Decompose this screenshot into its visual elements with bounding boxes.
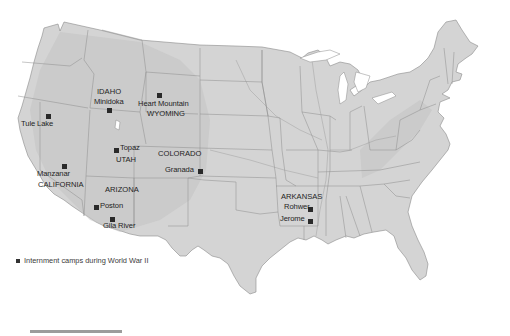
state-label-arizona: ARIZONA (105, 186, 139, 194)
great-salt-lake (115, 120, 120, 130)
state-label-idaho: IDAHO (97, 88, 121, 96)
camp-marker-granada[interactable] (198, 169, 203, 174)
camp-label-heart-mountain: Heart Mountain (138, 100, 189, 108)
lake-superior (300, 50, 340, 62)
state-label-arkansas: ARKANSAS (281, 193, 322, 201)
state-label-wyoming: WYOMING (147, 110, 185, 118)
camp-marker-jerome[interactable] (308, 219, 313, 224)
camp-marker-minidoka[interactable] (107, 108, 112, 113)
us-relief-map (0, 0, 510, 336)
camp-label-rohwer: Rohwer (284, 203, 310, 211)
camp-square-icon (16, 259, 20, 263)
camp-marker-heart-mountain[interactable] (157, 93, 162, 98)
camp-label-jerome: Jerome (280, 215, 305, 223)
scale-bar (30, 330, 122, 333)
camp-label-manzanar: Manzanar (37, 170, 70, 178)
camp-marker-poston[interactable] (94, 205, 99, 210)
camp-label-granada: Granada (165, 166, 194, 174)
state-label-utah: UTAH (116, 156, 136, 164)
camp-label-gila-river: Gila River (103, 222, 135, 230)
camp-label-tule-lake: Tule Lake (21, 120, 53, 128)
legend-text: Internment camps during World War II (24, 256, 148, 265)
camp-label-topaz: Topaz (120, 144, 140, 152)
state-label-colorado: COLORADO (158, 150, 201, 158)
map-legend: Internment camps during World War II (16, 256, 148, 265)
camp-label-minidoka: Minidoka (94, 98, 124, 106)
camp-label-poston: Poston (100, 202, 123, 210)
state-label-california: CALIFORNIA (38, 181, 84, 189)
camp-marker-topaz[interactable] (114, 148, 119, 153)
